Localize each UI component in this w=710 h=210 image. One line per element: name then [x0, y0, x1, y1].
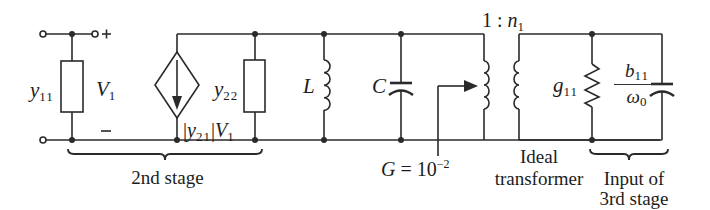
tap-arrow — [438, 80, 478, 156]
y22-admittance — [244, 34, 265, 140]
brace-third-stage — [590, 149, 668, 160]
caption-ideal-line2: transformer — [478, 169, 600, 188]
transformer-primary — [484, 34, 489, 140]
g11-resistor — [585, 34, 599, 140]
label-C: C — [372, 76, 386, 97]
label-y22: y22 — [214, 79, 238, 100]
caption-third-stage-line1: Input of — [596, 169, 672, 188]
label-tap-conductance: GG = 10 = 10−2 — [381, 159, 450, 179]
circuit-diagram: y11 V1 y22 |y21|V1 L C 1 : n1 g11 b11 ω0… — [0, 0, 710, 210]
caption-third-stage-line2: 3rd stage — [596, 189, 672, 208]
label-y21-v1: |y21|V1 — [183, 120, 235, 140]
y11-admittance — [61, 34, 83, 140]
brace-second-stage — [68, 149, 262, 160]
label-b11-over-omega0: b11 ω0 — [614, 60, 660, 108]
label-y11: y11 — [30, 80, 54, 101]
label-turns-ratio: 1 : n1 — [482, 10, 525, 30]
label-g11: g11 — [553, 75, 578, 96]
label-v1: V1 — [96, 79, 116, 100]
caption-second-stage: 2nd stage — [120, 168, 215, 187]
capacitor-C — [389, 34, 413, 140]
caption-ideal-line1: Ideal — [478, 147, 600, 166]
inductor-L — [324, 34, 330, 140]
label-L: L — [303, 76, 315, 97]
